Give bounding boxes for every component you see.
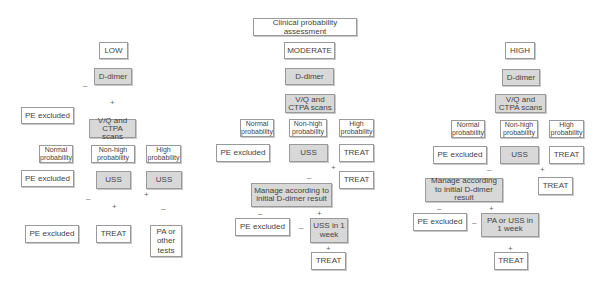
minus-sign: – [299, 224, 303, 232]
high-uss-box: USS [500, 146, 539, 164]
low-uss-box-2: USS [146, 171, 182, 189]
high-nonhigh-probability-box: Non-high probability [500, 120, 538, 138]
moderate-uss-1-week-box: USS in 1 week [310, 218, 348, 243]
high-box: HIGH [505, 42, 535, 59]
low-pe-excluded-box-2: PE excluded [21, 170, 74, 187]
low-vq-ctpa-box: V/Q and CTPA scans [89, 119, 136, 138]
high-treat-box-1: TREAT [549, 146, 584, 164]
moderate-treat-box-3: TREAT [311, 252, 346, 270]
low-box: LOW [99, 42, 128, 59]
plus-sign: + [331, 164, 336, 172]
plus-sign: + [112, 203, 117, 211]
high-high-probability-box: High probability [549, 120, 584, 138]
low-pe-excluded-box-3: PE excluded [25, 225, 79, 243]
low-high-probability-box: High probability [146, 145, 181, 163]
high-pe-excluded-box-1: PE excluded [433, 146, 487, 164]
high-d-dimer-box: D-dimer [502, 69, 540, 86]
low-pe-excluded-box-1: PE excluded [21, 107, 74, 124]
moderate-pe-excluded-box-1: PE excluded [216, 144, 270, 162]
plus-sign: + [540, 166, 545, 174]
high-pe-excluded-box-2: PE excluded [413, 213, 467, 231]
moderate-normal-probability-box: Normal probability [240, 119, 274, 137]
minus-sign: – [437, 205, 441, 213]
moderate-d-dimer-box: D-dimer [285, 68, 334, 85]
clinical-probability-box: Clinical probability assessment [253, 18, 357, 36]
low-pa-other-tests-box: PA or other tests [150, 225, 182, 257]
minus-sign: – [86, 195, 90, 203]
plus-sign: + [317, 210, 322, 218]
high-treat-box-2: TREAT [538, 177, 573, 195]
moderate-treat-box-1: TREAT [339, 144, 374, 162]
minus-sign: – [258, 210, 262, 218]
minus-sign: – [487, 166, 491, 174]
low-nonhigh-probability-box: Non-high probability [91, 145, 135, 163]
plus-sign: + [110, 99, 115, 107]
low-uss-box-1: USS [96, 171, 131, 189]
high-vq-ctpa-box: V/Q and CTPA scans [495, 94, 546, 113]
moderate-nonhigh-probability-box: Non-high probability [289, 119, 327, 137]
high-pa-uss-1-week-box: PA or USS in 1 week [481, 213, 539, 237]
minus-sign: – [307, 174, 311, 182]
moderate-box: MODERATE [284, 42, 335, 59]
plus-sign: + [489, 205, 494, 213]
high-treat-box-3: TREAT [494, 252, 528, 270]
minus-sign: – [83, 82, 87, 90]
high-normal-probability-box: Normal probability [451, 120, 485, 138]
minus-sign: – [472, 219, 476, 227]
moderate-high-probability-box: High probability [339, 119, 374, 137]
moderate-pe-excluded-box-2: PE excluded [235, 218, 290, 236]
moderate-uss-box: USS [289, 144, 328, 162]
minus-sign: – [161, 205, 165, 213]
low-normal-probability-box: Normal probability [39, 145, 73, 163]
moderate-treat-box-2: TREAT [339, 171, 374, 189]
low-treat-box: TREAT [96, 225, 131, 243]
high-manage-box: Manage according to initial D-dimer resu… [425, 178, 503, 202]
plus-sign: + [144, 191, 149, 199]
moderate-manage-box: Manage according to initial D-dimer resu… [251, 183, 332, 207]
low-d-dimer-box: D-dimer [94, 68, 132, 85]
moderate-vq-ctpa-box: V/Q and CTPA scans [285, 94, 335, 113]
